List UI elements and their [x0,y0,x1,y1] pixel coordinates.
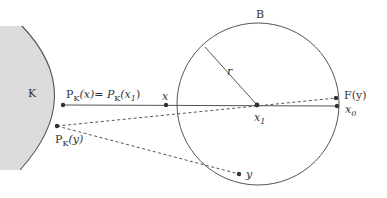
projection-diagram: K B r PK(x)= PK(x1) PK(y) x x1 x0 F(y) y [0,0,387,198]
label-x1: x1 [254,111,265,126]
point-Fy [334,96,338,100]
label-PKx: PK(x)= PK(x1) [66,88,140,103]
point-x1 [255,103,260,108]
point-PKy [55,124,59,128]
label-B: B [256,8,264,21]
dashed-PKy-y [57,126,239,174]
label-x: x [162,90,169,103]
label-PKy: PK(y) [55,133,83,148]
label-y: y [245,168,253,181]
point-x0 [335,104,339,108]
point-y [237,172,241,176]
segment-PKx-x0 [63,105,337,106]
point-x [164,103,168,107]
point-PKx [61,103,65,107]
label-x0: x0 [345,103,356,118]
dashed-PKy-Fy [57,98,336,126]
label-K: K [28,87,37,100]
label-Fy: F(y) [344,89,366,102]
label-r: r [227,65,233,78]
